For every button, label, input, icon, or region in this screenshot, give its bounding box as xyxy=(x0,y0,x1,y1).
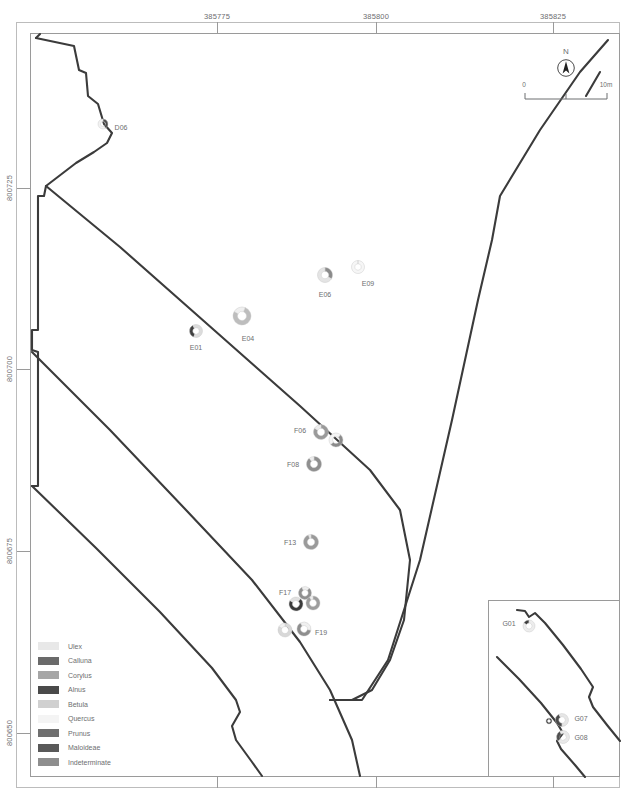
x-axis-tick xyxy=(376,22,377,33)
legend-item: Prunus xyxy=(38,726,111,741)
inset-map: G01G07G08 xyxy=(488,600,620,777)
sample-pie-marker[interactable] xyxy=(287,595,305,613)
legend-item-label: Corylus xyxy=(68,672,92,679)
legend-item-label: Indeterminate xyxy=(68,759,111,766)
scale-bar-max-label: 10m xyxy=(600,81,613,88)
scale-bar-min-label: 0 xyxy=(522,81,526,88)
legend-item: Ulex xyxy=(38,639,111,654)
sample-pie-icon xyxy=(555,729,572,746)
legend-item: Betula xyxy=(38,697,111,712)
legend-color-swatch xyxy=(38,758,59,766)
sample-marker-label: D06 xyxy=(115,124,128,131)
sample-pie-marker[interactable] xyxy=(305,455,324,474)
x-axis-tick-bottom xyxy=(376,777,377,788)
y-axis-tick xyxy=(17,188,30,189)
legend-item: Quercus xyxy=(38,712,111,727)
sample-pie-marker[interactable] xyxy=(295,620,313,638)
y-axis-tick xyxy=(17,369,30,370)
sample-pie-segment xyxy=(301,622,312,630)
sample-pie-icon xyxy=(521,618,537,634)
sample-pie-icon xyxy=(316,266,335,285)
legend-color-swatch xyxy=(38,715,59,723)
sample-pie-icon xyxy=(287,595,305,613)
sample-pie-icon xyxy=(295,620,313,638)
legend-item-label: Maloideae xyxy=(68,744,100,751)
sample-pie-marker[interactable] xyxy=(96,117,110,131)
legend-item-label: Ulex xyxy=(68,643,82,650)
sample-pie-marker[interactable] xyxy=(316,266,335,285)
sample-pie-icon xyxy=(231,305,253,327)
legend-item: Alnus xyxy=(38,683,111,698)
taxa-legend: UlexCallunaCorylusAlnusBetulaQuercusPrun… xyxy=(38,639,111,770)
legend-color-swatch xyxy=(38,686,59,694)
sample-pie-icon xyxy=(304,594,322,612)
sample-pie-marker[interactable] xyxy=(188,323,205,340)
sample-pie-segment xyxy=(193,325,203,338)
legend-color-swatch xyxy=(38,729,59,737)
sample-pie-marker[interactable] xyxy=(544,712,554,722)
x-axis-tick-label: 385800 xyxy=(363,12,389,21)
sample-pie-marker[interactable] xyxy=(231,305,253,327)
sample-pie-segment xyxy=(546,718,552,724)
legend-item-label: Betula xyxy=(68,701,88,708)
legend-item: Corylus xyxy=(38,668,111,683)
y-axis-tick xyxy=(17,551,30,552)
scale-bar: 0 10m xyxy=(524,82,606,103)
legend-item: Maloideae xyxy=(38,741,111,756)
sample-marker-label: G01 xyxy=(502,620,515,627)
legend-color-swatch xyxy=(38,642,59,650)
sample-marker-label: E06 xyxy=(319,291,331,298)
x-axis-tick-bottom xyxy=(553,777,554,788)
north-arrow-label: N xyxy=(553,47,579,56)
sample-marker-label: G07 xyxy=(574,715,587,722)
sample-marker-label: F19 xyxy=(315,629,327,636)
north-arrow: N xyxy=(553,47,579,79)
legend-item-label: Quercus xyxy=(68,715,94,722)
sample-pie-icon xyxy=(188,323,205,340)
legend-item: Calluna xyxy=(38,654,111,669)
y-axis-tick-label: 800725 xyxy=(5,175,14,201)
sample-pie-marker[interactable] xyxy=(555,729,572,746)
sample-pie-marker[interactable] xyxy=(276,621,294,639)
legend-item-label: Prunus xyxy=(68,730,90,737)
sample-pie-icon xyxy=(327,431,345,449)
north-arrow-icon xyxy=(555,57,577,79)
sample-marker-label: E04 xyxy=(242,335,254,342)
x-axis-tick-label: 385825 xyxy=(540,12,566,21)
sample-pie-segment xyxy=(352,261,365,274)
sample-pie-icon xyxy=(305,455,324,474)
sample-marker-label: F08 xyxy=(287,461,299,468)
scale-bar-graphic xyxy=(524,91,608,103)
legend-color-swatch xyxy=(38,657,59,665)
sample-pie-icon xyxy=(96,117,110,131)
x-axis-tick-label: 385775 xyxy=(204,12,230,21)
sample-pie-marker[interactable] xyxy=(327,431,345,449)
sample-marker-label: E09 xyxy=(362,280,374,287)
sample-pie-icon xyxy=(302,533,321,552)
sample-marker-label: E01 xyxy=(190,344,202,351)
sample-pie-icon xyxy=(350,259,367,276)
map-figure: 385775385800385825 800725800700800675800… xyxy=(0,0,637,811)
sample-pie-icon xyxy=(554,712,571,729)
y-axis-tick-label: 800675 xyxy=(5,538,14,564)
legend-item-label: Calluna xyxy=(68,657,92,664)
legend-color-swatch xyxy=(38,700,59,708)
legend-item-label: Alnus xyxy=(68,686,86,693)
y-axis-tick-label: 800700 xyxy=(5,356,14,382)
sample-pie-marker[interactable] xyxy=(350,259,367,276)
sample-pie-marker[interactable] xyxy=(521,618,537,634)
sample-pie-marker[interactable] xyxy=(302,533,321,552)
sample-pie-icon xyxy=(276,621,294,639)
sample-marker-label: F06 xyxy=(294,427,306,434)
sample-marker-label: F13 xyxy=(284,539,296,546)
sample-pie-marker[interactable] xyxy=(554,712,571,729)
x-axis-tick-bottom xyxy=(217,777,218,788)
x-axis-tick xyxy=(217,22,218,33)
y-axis-tick-label: 800650 xyxy=(5,720,14,746)
sample-pie-icon xyxy=(544,716,554,726)
legend-item: Indeterminate xyxy=(38,755,111,770)
y-axis-tick xyxy=(17,733,30,734)
sample-pie-marker[interactable] xyxy=(304,594,322,612)
sample-marker-label: G08 xyxy=(574,734,587,741)
legend-color-swatch xyxy=(38,744,59,752)
